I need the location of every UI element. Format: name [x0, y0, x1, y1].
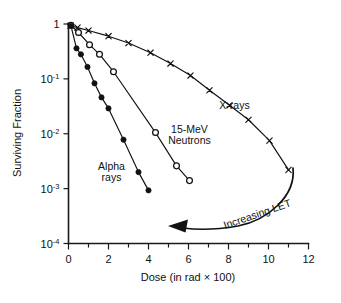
series-label: X-rays [219, 99, 249, 111]
data-point-cross [267, 138, 272, 143]
series-line [71, 25, 190, 180]
data-point-cross [126, 40, 131, 45]
increasing-let-arrowhead [168, 220, 188, 233]
data-point-open-circle [111, 69, 117, 75]
x-axis-title: Dose (in rad × 100) [141, 271, 235, 283]
data-point-open-circle [97, 51, 103, 57]
x-axis-tick-label: 6 [185, 253, 191, 265]
data-point-filled-circle [121, 137, 126, 142]
x-axis-tick-label: 4 [145, 253, 151, 265]
data-point-open-circle [87, 42, 93, 48]
figure-root: 110-110-210-310-4 024681012 X-rays15-MeV… [0, 0, 341, 303]
data-point-filled-circle [136, 170, 141, 175]
x-axis-tick-label: 2 [105, 253, 111, 265]
series-label: 15-MeVNeutrons [168, 123, 211, 146]
series-inline-labels: X-rays15-MeVNeutronsAlpharays [98, 99, 250, 183]
data-point-filled-circle [68, 23, 73, 28]
x-axis-tick-label: 0 [65, 253, 71, 265]
data-point-open-circle [174, 163, 180, 169]
data-point-open-circle [187, 178, 193, 184]
y-axis-title: Surviving Fraction [11, 89, 23, 177]
data-point-cross [286, 167, 291, 172]
x-axis-tick-labels: 024681012 [65, 253, 314, 265]
y-axis-tick-label: 10-2 [41, 127, 60, 140]
data-point-open-circle [76, 30, 82, 36]
x-axis-ticks [69, 244, 309, 250]
data-point-cross [148, 50, 153, 55]
data-point-filled-circle [92, 81, 97, 86]
data-point-filled-circle [78, 52, 83, 57]
data-point-cross [168, 61, 173, 66]
data-point-open-circle [153, 130, 159, 136]
data-point-filled-circle [146, 188, 151, 193]
y-axis-tick-label: 10-3 [41, 182, 60, 195]
survival-fraction-chart: 110-110-210-310-4 024681012 X-rays15-MeV… [0, 0, 341, 303]
x-axis-tick-label: 12 [302, 253, 314, 265]
y-axis-tick-labels: 110-110-210-310-4 [41, 18, 60, 250]
data-point-filled-circle [74, 46, 79, 51]
increasing-let-label: Increasing LET [222, 196, 293, 231]
data-point-filled-circle [85, 64, 90, 69]
y-axis-tick-label: 10-1 [41, 72, 60, 85]
data-point-filled-circle [99, 95, 104, 100]
y-axis-tick-label: 1 [53, 18, 59, 30]
data-point-filled-circle [106, 106, 111, 111]
x-axis-tick-label: 8 [225, 253, 231, 265]
series-label: Alpharays [98, 160, 125, 183]
data-point-cross [207, 88, 212, 93]
data-point-cross [246, 117, 251, 122]
series-15-mev-neutrons [68, 22, 192, 183]
data-point-cross [188, 73, 193, 78]
x-axis-tick-label: 10 [262, 253, 274, 265]
y-axis-tick-label: 10-4 [41, 237, 60, 250]
